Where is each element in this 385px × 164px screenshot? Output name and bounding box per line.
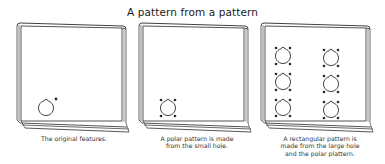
caption-line: A polar pattern is made [136,135,258,142]
panel-polar [139,23,251,132]
small-hole-icon [55,98,58,101]
caption-line: and the polar plattern. [258,150,382,157]
panel-rectangular [261,23,373,132]
caption-rectangular: A rectangular pattern is made from the l… [258,135,382,157]
caption-line: The original features. [14,135,134,142]
panel-original [17,23,129,132]
caption-polar: A polar pattern is made from the small h… [136,135,258,150]
caption-line: from the small hole. [136,142,258,149]
caption-original: The original features. [14,135,134,142]
caption-line: A rectangular pattern is [258,135,382,142]
caption-line: made from the large hole [258,142,382,149]
